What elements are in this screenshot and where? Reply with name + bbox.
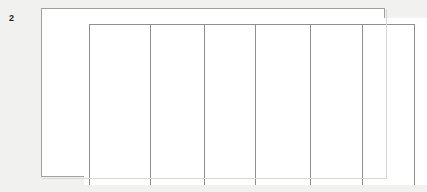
table-column-6[interactable]	[363, 25, 415, 185]
table-column-4[interactable]	[256, 25, 311, 185]
table-right-gutter	[415, 18, 427, 185]
table-column-5[interactable]	[311, 25, 363, 185]
table-outer-frame[interactable]	[41, 8, 385, 177]
table-column-1[interactable]	[90, 25, 151, 185]
table-right-shadow	[386, 9, 387, 179]
table-column-grid	[89, 24, 415, 185]
figure-number-label: 2	[9, 13, 14, 23]
table-column-2[interactable]	[151, 25, 205, 185]
table-bottom-shadow	[42, 178, 387, 179]
table-column-3[interactable]	[205, 25, 256, 185]
